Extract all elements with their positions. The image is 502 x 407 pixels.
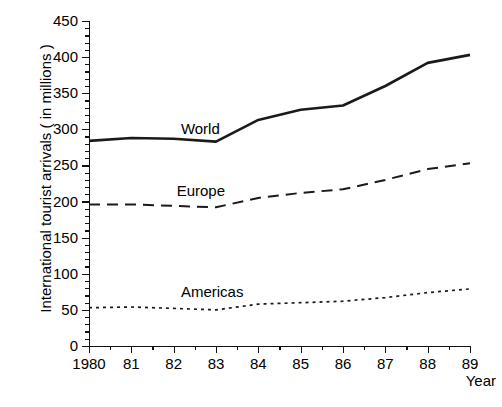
y-tick-label: 150: [32, 230, 78, 245]
y-tick-label: 50: [32, 302, 78, 317]
x-tick-label: 89: [448, 356, 492, 371]
series-label-americas: Americas: [178, 284, 247, 299]
x-tick-label: 84: [236, 356, 280, 371]
x-tick-label: 1980: [67, 356, 111, 371]
chart-container: International tourist arrivals ( in mill…: [0, 0, 502, 407]
series-line-americas: [89, 289, 470, 310]
data-series: [89, 55, 470, 310]
y-axis-title: International tourist arrivals ( in mill…: [37, 19, 54, 339]
x-tick-label: 83: [194, 356, 238, 371]
y-tick-label: 400: [32, 49, 78, 64]
x-tick-label: 82: [152, 356, 196, 371]
x-tick-label: 88: [406, 356, 450, 371]
x-tick-label: 85: [279, 356, 323, 371]
x-tick-label: 81: [109, 356, 153, 371]
series-label-europe: Europe: [174, 183, 228, 198]
y-tick-label: 0: [32, 338, 78, 353]
y-tick-label: 250: [32, 157, 78, 172]
y-tick-label: 350: [32, 85, 78, 100]
x-axis-title: Year: [466, 372, 496, 389]
x-tick-label: 86: [321, 356, 365, 371]
y-tick-label: 300: [32, 121, 78, 136]
y-tick-label: 100: [32, 266, 78, 281]
y-tick-label: 450: [32, 13, 78, 28]
x-tick-label: 87: [363, 356, 407, 371]
series-line-world: [89, 55, 470, 142]
series-label-world: World: [178, 121, 223, 136]
y-tick-label: 200: [32, 194, 78, 209]
series-line-europe: [89, 163, 470, 207]
